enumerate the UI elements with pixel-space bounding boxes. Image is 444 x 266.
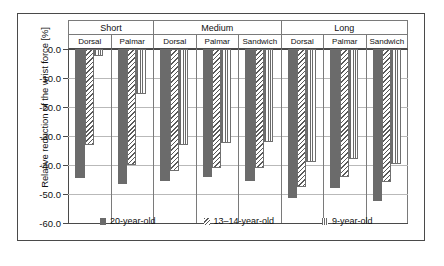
bar	[349, 49, 358, 159]
column-separator	[366, 49, 367, 223]
bar	[160, 49, 169, 181]
y-tick-label: -50.0	[39, 189, 61, 200]
subgroup-header-long-palmar: Palmar	[323, 34, 366, 49]
subgroup-header-long-sandwich: Sandwich	[366, 34, 409, 49]
legend-swatch-icon	[204, 218, 210, 225]
chart-legend: 20-year-old13–14-year-old9-year-old	[92, 216, 382, 226]
bar	[75, 49, 84, 178]
subgroup-header-long-dorsal: Dorsal	[281, 34, 324, 49]
column-separator	[196, 49, 197, 223]
y-tick-label: -20.0	[39, 102, 61, 113]
legend-item: 13–14-year-old	[204, 216, 275, 226]
bar	[118, 49, 127, 184]
column-separator	[153, 49, 154, 223]
column-separator	[323, 49, 324, 223]
legend-item: 20-year-old	[100, 216, 156, 226]
bar-cluster-medium-palmar	[203, 49, 231, 223]
subgroup-header-medium-sandwich: Sandwich	[238, 34, 281, 49]
bar	[373, 49, 382, 201]
bar	[212, 49, 221, 168]
bar-cluster-short-dorsal	[75, 49, 103, 223]
bar	[382, 49, 391, 182]
group-header-row: ShortMediumLong	[68, 20, 408, 34]
bar	[221, 49, 230, 143]
legend-label: 20-year-old	[110, 216, 156, 226]
axes-area: 0.0-10.0-20.0-30.0-40.0-50.0-60.0	[68, 49, 408, 223]
group-header-short: Short	[68, 20, 153, 34]
subgroup-header-medium-dorsal: Dorsal	[153, 34, 196, 49]
bar-cluster-long-sandwich	[373, 49, 401, 223]
bar	[330, 49, 339, 188]
bar	[391, 49, 400, 164]
chart-figure: Relative reduction of the wrist force [%…	[17, 13, 425, 241]
subgroup-header-short-dorsal: Dorsal	[68, 34, 111, 49]
y-tick	[63, 107, 68, 108]
bar	[306, 49, 315, 162]
bar	[85, 49, 94, 145]
bar-cluster-medium-sandwich	[245, 49, 273, 223]
column-separator	[281, 49, 282, 223]
legend-label: 13–14-year-old	[214, 216, 275, 226]
y-tick-label: -30.0	[39, 131, 61, 142]
group-header-band: ShortMediumLong DorsalPalmarDorsalPalmar…	[68, 20, 408, 49]
y-tick	[63, 223, 68, 224]
y-tick	[63, 78, 68, 79]
bar	[288, 49, 297, 198]
column-separator	[238, 49, 239, 223]
y-tick-label: -10.0	[39, 73, 61, 84]
bar	[203, 49, 212, 177]
bar	[340, 49, 349, 177]
legend-swatch-icon	[100, 218, 106, 225]
bar	[264, 49, 273, 142]
legend-label: 9-year-old	[332, 216, 373, 226]
bar	[94, 49, 103, 56]
bar	[245, 49, 254, 181]
group-header-medium: Medium	[153, 20, 281, 34]
column-separator	[111, 49, 112, 223]
y-tick	[63, 136, 68, 137]
y-tick-label: -40.0	[39, 160, 61, 171]
bar	[170, 49, 179, 171]
bar	[255, 49, 264, 168]
bar	[297, 49, 306, 187]
bar	[127, 49, 136, 165]
bar-cluster-long-dorsal	[288, 49, 316, 223]
y-tick-label: 0.0	[48, 44, 61, 55]
y-tick	[63, 165, 68, 166]
legend-item: 9-year-old	[322, 216, 373, 226]
bar	[136, 49, 145, 94]
bar-cluster-short-palmar	[118, 49, 146, 223]
legend-swatch-icon	[322, 218, 328, 225]
y-tick	[63, 49, 68, 50]
subgroup-header-short-palmar: Palmar	[111, 34, 154, 49]
bar-cluster-long-palmar	[330, 49, 358, 223]
bar	[179, 49, 188, 145]
group-header-long: Long	[281, 20, 409, 34]
subgroup-header-medium-palmar: Palmar	[196, 34, 239, 49]
y-tick-label: -60.0	[39, 218, 61, 229]
plot-region: ShortMediumLong DorsalPalmarDorsalPalmar…	[68, 20, 408, 233]
y-tick	[63, 194, 68, 195]
subgroup-header-row: DorsalPalmarDorsalPalmarSandwichDorsalPa…	[68, 34, 408, 49]
bar-cluster-medium-dorsal	[160, 49, 188, 223]
